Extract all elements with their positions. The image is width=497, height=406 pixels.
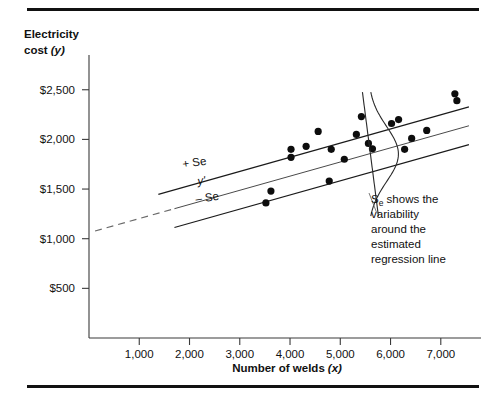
y-axis-tick-label: $1,500 (40, 183, 75, 195)
x-axis-tick-label: 7,000 (426, 348, 455, 360)
upper-band-label: + Se (182, 155, 207, 170)
y-axis-tick-label: $500 (49, 282, 75, 294)
x-axis-ticks (139, 338, 441, 345)
data-point (303, 143, 310, 150)
annotation-line-4: estimated (371, 238, 421, 250)
data-point (341, 156, 348, 163)
data-point (395, 116, 402, 123)
annotation-line-5: regression line (371, 253, 446, 265)
data-point (287, 146, 294, 153)
annotation-line-1-rest: shows the (383, 193, 438, 205)
annotation-line-1: Se shows the (371, 193, 438, 208)
data-points (262, 90, 460, 206)
band-labels: + Se y' – Se (182, 155, 220, 205)
data-point (267, 187, 274, 194)
scatter-plot: $500$1,000$1,500$2,000$2,500 1,0002,0003… (0, 0, 497, 406)
regression-line-label: y' (196, 174, 207, 187)
annotation-text: Se shows the variability around the esti… (371, 193, 446, 265)
x-axis-tick-label: 3,000 (225, 348, 254, 360)
lower-se-band-line (174, 145, 469, 228)
x-axis-tick-label: 2,000 (175, 348, 204, 360)
data-point (358, 113, 365, 120)
annotation-line-2: variability (371, 208, 419, 220)
x-axis-title: Number of welds(x) (232, 362, 342, 374)
x-axis-tick-label: 5,000 (326, 348, 355, 360)
y-axis-tick-label: $1,000 (40, 233, 75, 245)
data-point (287, 154, 294, 161)
data-point (401, 146, 408, 153)
x-axis-tick-label: 4,000 (276, 348, 305, 360)
data-point (423, 127, 430, 134)
data-point (451, 90, 458, 97)
y-axis-tick-label: $2,000 (40, 133, 75, 145)
data-point (353, 131, 360, 138)
lower-band-label: – Se (195, 190, 220, 205)
data-point (262, 199, 269, 206)
y-axis-tick-label: $2,500 (40, 84, 75, 96)
annotation-line-3: around the (371, 223, 426, 235)
y-axis-tick-labels: $500$1,000$1,500$2,000$2,500 (40, 84, 75, 295)
data-point (388, 120, 395, 127)
y-axis-title-line1: Electricity (24, 28, 80, 40)
regression-line-dashed-extension (95, 209, 174, 231)
data-point (453, 97, 460, 104)
figure-container: $500$1,000$1,500$2,000$2,500 1,0002,0003… (0, 0, 497, 406)
x-axis-tick-labels: 1,0002,0003,0004,0005,0006,0007,000 (125, 348, 455, 360)
data-point (328, 146, 335, 153)
y-axis-title-line2: cost(y) (24, 44, 65, 56)
x-axis-tick-label: 6,000 (376, 348, 405, 360)
data-point (408, 135, 415, 142)
y-axis-ticks (82, 90, 89, 289)
data-point (326, 178, 333, 185)
x-axis-tick-label: 1,000 (125, 348, 154, 360)
data-point (315, 128, 322, 135)
